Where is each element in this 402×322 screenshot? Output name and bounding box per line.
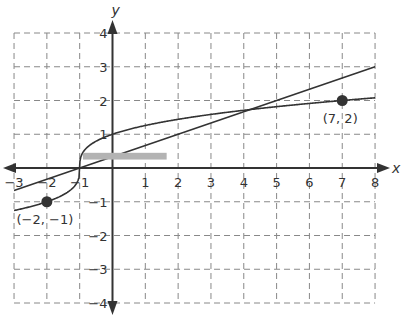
gray-redaction-bar	[83, 153, 167, 160]
x-tick-label: 1	[141, 175, 149, 190]
y-tick-label: −1	[88, 195, 107, 210]
y-tick-label: −3	[88, 262, 107, 277]
graph: −3−2−1123456784321−1−2−3−4 (−2, −1)(7, 2…	[0, 0, 402, 322]
series	[14, 67, 375, 211]
x-tick-label: 3	[207, 175, 215, 190]
x-tick-label: 6	[305, 175, 313, 190]
x-tick-label: 8	[371, 175, 379, 190]
axes	[3, 20, 390, 315]
point-marker	[41, 196, 52, 207]
redaction-rect	[83, 153, 167, 160]
cube-root-curve	[14, 98, 375, 211]
points: (−2, −1)(7, 2)	[16, 95, 357, 227]
linear-line	[14, 67, 375, 191]
y-tick-label: 1	[99, 127, 107, 142]
y-tick-label: 4	[99, 26, 107, 41]
y-tick-label: 3	[99, 60, 107, 75]
y-axis-up-arrow-icon	[108, 20, 118, 34]
point-marker	[337, 95, 348, 106]
x-tick-label: 4	[240, 175, 248, 190]
y-axis-down-arrow-icon	[108, 301, 118, 315]
y-axis-label: y	[111, 2, 121, 18]
x-tick-label: 5	[272, 175, 280, 190]
point-label: (7, 2)	[323, 111, 358, 126]
y-tick-label: −2	[88, 229, 107, 244]
y-tick-label: 2	[99, 94, 107, 109]
x-axis-left-arrow-icon	[3, 163, 16, 173]
point-label: (−2, −1)	[16, 212, 73, 227]
x-axis-right-arrow-icon	[377, 163, 390, 173]
x-axis-label: x	[391, 160, 401, 176]
x-tick-label: 7	[338, 175, 346, 190]
x-tick-label: 2	[174, 175, 182, 190]
y-tick-label: −4	[88, 296, 107, 311]
